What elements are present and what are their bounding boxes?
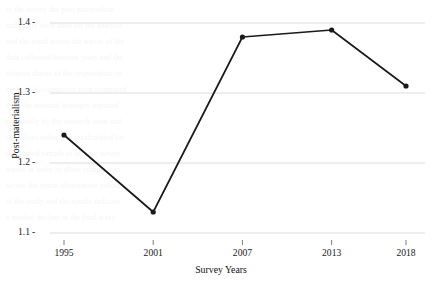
x-tickmark-group bbox=[64, 240, 406, 245]
x-axis-tick-label: 1995 bbox=[39, 247, 89, 258]
data-point-group bbox=[61, 27, 408, 214]
data-line-post-materialism bbox=[64, 30, 406, 212]
y-axis-tick-mark: - bbox=[32, 156, 40, 167]
data-point-marker bbox=[240, 34, 245, 39]
x-axis-tick-label: 2001 bbox=[128, 247, 178, 258]
y-axis-tick-mark: - bbox=[32, 86, 40, 97]
y-axis-tick-mark: - bbox=[32, 16, 40, 27]
chart-container: in the survey the post materialism indic… bbox=[0, 0, 442, 289]
x-axis-tick-label: 2007 bbox=[217, 247, 267, 258]
gridline-group bbox=[50, 23, 425, 233]
y-axis-tick-label: 1.1 bbox=[0, 226, 30, 237]
y-axis-tick-mark: - bbox=[32, 226, 40, 237]
data-point-marker bbox=[151, 209, 156, 214]
data-point-marker bbox=[61, 132, 66, 137]
plot-area bbox=[0, 0, 442, 289]
x-axis-tick-label: 2018 bbox=[381, 247, 431, 258]
data-point-marker bbox=[403, 83, 408, 88]
x-axis-tick-label: 2013 bbox=[307, 247, 357, 258]
y-axis-title: Post-materialism bbox=[10, 66, 21, 186]
x-axis-title: Survey Years bbox=[0, 264, 442, 275]
y-axis-tick-label: 1.4 bbox=[0, 16, 30, 27]
data-point-marker bbox=[329, 27, 334, 32]
